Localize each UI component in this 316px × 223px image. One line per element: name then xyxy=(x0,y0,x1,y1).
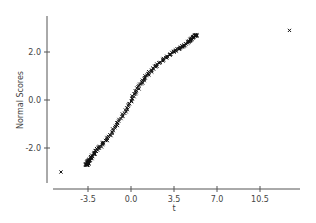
y-axis-title: Normal Scores xyxy=(16,71,25,129)
y-axis: -2.00.02.0 xyxy=(25,16,50,183)
qq-plot: -2.00.02.0 -3.50.03.57.010.5 Normal Scor… xyxy=(0,0,316,223)
x-tick-label: -3.5 xyxy=(80,195,96,204)
y-tick-label: 2.0 xyxy=(28,48,41,57)
y-tick-label: 0.0 xyxy=(28,96,41,105)
y-tick-label: -2.0 xyxy=(25,144,41,153)
x-axis: -3.50.03.57.010.5 xyxy=(53,186,300,204)
data-points xyxy=(84,33,199,167)
x-axis-title: t xyxy=(172,204,175,213)
x-tick-label: 7.0 xyxy=(211,195,224,204)
x-tick-label: 10.5 xyxy=(251,195,269,204)
x-tick-label: 3.5 xyxy=(168,195,181,204)
x-tick-label: 0.0 xyxy=(125,195,138,204)
